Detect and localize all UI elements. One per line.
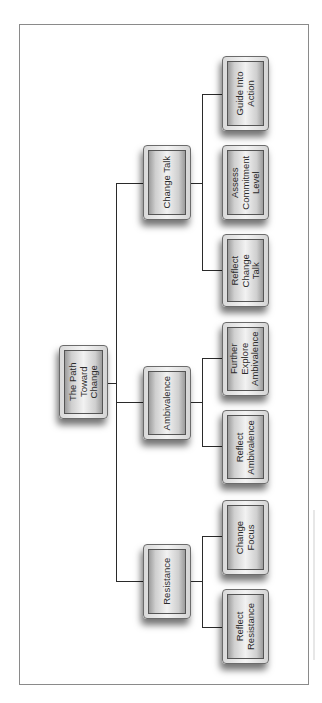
node-inner: Reflect Change Talk <box>227 239 264 302</box>
node-label: Change Talk <box>162 156 173 209</box>
connector-change-talk-trunk <box>202 94 203 271</box>
connector-resistance-trunk <box>202 536 203 628</box>
connector-to-ambivalence <box>116 402 143 403</box>
node-reflect-change-talk: Reflect Change Talk <box>222 234 269 307</box>
node-label: Change Focus <box>235 521 256 554</box>
node-ambivalence: Ambivalence <box>143 366 191 440</box>
node-inner: Change Focus <box>227 505 264 570</box>
node-reflect-ambivalence: Reflect Ambivalence <box>222 410 269 484</box>
node-change-talk: Change Talk <box>143 145 191 220</box>
node-inner: Change Talk <box>148 150 186 215</box>
connector-to-reflect-resistance <box>202 627 222 628</box>
node-resistance: Resistance <box>143 544 191 619</box>
node-inner: Reflect Resistance <box>227 594 264 659</box>
node-inner: Further Explore Ambivalence <box>227 327 264 391</box>
node-inner: Assess Commitment Level <box>227 150 264 215</box>
node-the-path-toward-change: The Path Toward Change <box>59 345 108 419</box>
connector-to-resistance <box>116 581 143 582</box>
node-label: Resistance <box>162 558 173 605</box>
node-label: Reflect Change Talk <box>230 254 262 287</box>
node-reflect-resistance: Reflect Resistance <box>222 589 269 664</box>
node-label: Guide Into Action <box>235 72 256 116</box>
connector-to-reflect-ambivalence <box>202 446 222 447</box>
connector-to-reflect-change-talk <box>202 270 222 271</box>
node-inner: Resistance <box>148 549 186 614</box>
node-label: Ambivalence <box>162 376 173 430</box>
node-further-explore-ambivalence: Further Explore Ambivalence <box>222 322 269 396</box>
node-label: Further Explore Ambivalence <box>230 332 262 386</box>
node-inner: The Path Toward Change <box>64 350 103 414</box>
connector-to-change-talk <box>116 183 143 184</box>
connector-ambivalence-trunk <box>202 358 203 447</box>
connector-to-guide-into-action <box>202 94 222 95</box>
connector-to-further-explore-ambivalence <box>202 358 222 359</box>
node-guide-into-action: Guide Into Action <box>222 56 269 131</box>
node-inner: Reflect Ambivalence <box>227 415 264 479</box>
node-label: Reflect Ambivalence <box>235 420 256 474</box>
node-label: Assess Commitment Level <box>230 156 262 210</box>
connector-to-change-focus <box>202 536 222 537</box>
node-inner: Guide Into Action <box>227 61 264 126</box>
connector-level1-trunk <box>116 183 117 582</box>
scan-mark <box>313 510 315 660</box>
node-label: The Path Toward Change <box>68 363 100 402</box>
node-assess-commitment-level: Assess Commitment Level <box>222 145 269 220</box>
node-inner: Ambivalence <box>148 371 186 435</box>
node-change-focus: Change Focus <box>222 500 269 575</box>
node-label: Reflect Resistance <box>235 603 256 650</box>
